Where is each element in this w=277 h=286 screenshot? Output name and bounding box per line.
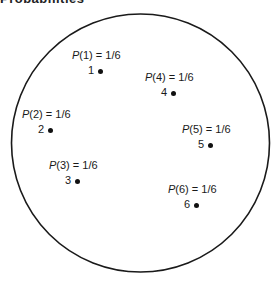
prob-arg: (5) bbox=[189, 123, 202, 135]
probability-label: P(3) = 1/6 bbox=[49, 159, 98, 172]
probability-label: P(6) = 1/6 bbox=[168, 183, 217, 196]
outcome-label: 4 bbox=[161, 86, 167, 99]
outcome-point-icon bbox=[171, 91, 176, 96]
prob-value: = 1/6 bbox=[206, 123, 231, 135]
prob-value: = 1/6 bbox=[192, 183, 217, 195]
outcome-label: 5 bbox=[198, 138, 204, 151]
probability-label: P(4) = 1/6 bbox=[145, 71, 194, 84]
outcome-label: 3 bbox=[65, 174, 71, 187]
outcome-point-icon bbox=[48, 128, 53, 133]
prob-arg: (4) bbox=[152, 71, 165, 83]
outcome-label: 6 bbox=[184, 198, 190, 211]
prob-arg: (2) bbox=[29, 108, 42, 120]
probability-label: P(1) = 1/6 bbox=[72, 49, 121, 62]
outcome-point-icon bbox=[208, 143, 213, 148]
outcome-label: 2 bbox=[38, 123, 44, 136]
prob-value: = 1/6 bbox=[96, 49, 121, 61]
probability-label: P(2) = 1/6 bbox=[22, 108, 71, 121]
prob-value: = 1/6 bbox=[46, 108, 71, 120]
probability-label: P(5) = 1/6 bbox=[182, 123, 231, 136]
outcome-point-icon bbox=[75, 179, 80, 184]
prob-value: = 1/6 bbox=[73, 159, 98, 171]
outcome-point-icon bbox=[194, 203, 199, 208]
sample-space-circle bbox=[0, 0, 277, 286]
prob-value: = 1/6 bbox=[169, 71, 194, 83]
prob-arg: (1) bbox=[79, 49, 92, 61]
outcome-label: 1 bbox=[88, 64, 94, 77]
prob-arg: (6) bbox=[175, 183, 188, 195]
outcome-point-icon bbox=[98, 69, 103, 74]
prob-arg: (3) bbox=[56, 159, 69, 171]
